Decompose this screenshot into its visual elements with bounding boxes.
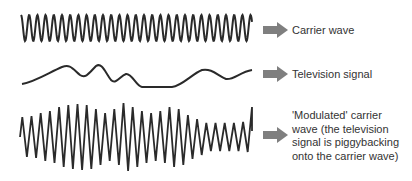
label-line: 'Modulated' carrier [292, 109, 399, 123]
right-arrow-icon [263, 22, 289, 38]
label-line: onto the carrier wave) [292, 150, 399, 164]
television-signal-wave [22, 65, 252, 87]
label-line: wave (the television [292, 123, 399, 137]
right-arrow-icon [263, 127, 289, 143]
carrier-wave-label: Carrier wave [292, 24, 354, 38]
modulated-carrier-label: 'Modulated' carrier wave (the television… [292, 109, 399, 163]
carrier-wave [21, 15, 252, 41]
television-signal-label: Television signal [292, 68, 372, 82]
modulated-carrier-wave [20, 103, 252, 171]
right-arrow-icon [263, 66, 289, 82]
label-line: signal is piggybacking [292, 136, 399, 150]
